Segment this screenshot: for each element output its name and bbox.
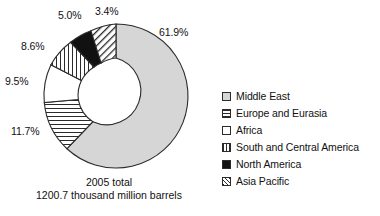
chart-legend: Middle East Europe and Eurasia Africa So… [218, 0, 380, 216]
legend-swatch-north-america [222, 160, 231, 169]
legend-label-south-and-central-america: South and Central America [236, 142, 359, 153]
slice-label-africa: 9.5% [5, 76, 29, 87]
legend-swatch-south-and-central-america [222, 143, 231, 152]
legend-item-north-america[interactable]: North America [218, 156, 380, 173]
legend-item-europe-and-eurasia[interactable]: Europe and Eurasia [218, 105, 380, 122]
slice-label-south-and-central-america: 8.6% [21, 41, 45, 52]
legend-item-asia-pacific[interactable]: Asia Pacific [218, 173, 380, 190]
caption-line-2: 1200.7 thousand million barrels [0, 189, 218, 202]
chart-caption: 2005 total 1200.7 thousand million barre… [0, 176, 218, 202]
donut-chart: 61.9% 11.7% 9.5% 8.6% 5.0% 3.4% 2005 tot… [0, 0, 218, 216]
legend-label-middle-east: Middle East [236, 91, 290, 102]
legend-item-south-and-central-america[interactable]: South and Central America [218, 139, 380, 156]
legend-label-africa: Africa [236, 125, 262, 136]
legend-item-middle-east[interactable]: Middle East [218, 88, 380, 105]
legend-item-africa[interactable]: Africa [218, 122, 380, 139]
legend-swatch-middle-east [222, 92, 231, 101]
legend-swatch-asia-pacific [222, 177, 231, 186]
legend-swatch-europe-and-eurasia [222, 109, 231, 118]
pie-chart-figure: 61.9% 11.7% 9.5% 8.6% 5.0% 3.4% 2005 tot… [0, 0, 380, 216]
legend-swatch-africa [222, 126, 231, 135]
slice-label-north-america: 5.0% [58, 10, 82, 21]
caption-line-1: 2005 total [0, 176, 218, 189]
slice-label-middle-east: 61.9% [159, 27, 188, 38]
legend-label-north-america: North America [236, 159, 301, 170]
legend-label-europe-and-eurasia: Europe and Eurasia [236, 108, 327, 119]
slice-label-europe-and-eurasia: 11.7% [11, 126, 40, 137]
slice-label-asia-pacific: 3.4% [95, 6, 119, 17]
legend-label-asia-pacific: Asia Pacific [236, 176, 289, 187]
